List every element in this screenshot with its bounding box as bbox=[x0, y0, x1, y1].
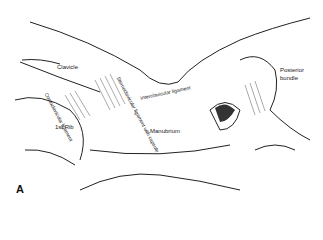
label-clavicle: Clavicle bbox=[57, 64, 78, 70]
label-first-rib: 1st Rib bbox=[55, 124, 74, 130]
panel-label: A bbox=[16, 183, 24, 195]
label-posterior-bundle-line2: bundle bbox=[280, 75, 298, 81]
label-posterior-bundle-line1: Posterior bbox=[280, 67, 304, 73]
label-manubrium: Manubrium bbox=[150, 128, 180, 134]
